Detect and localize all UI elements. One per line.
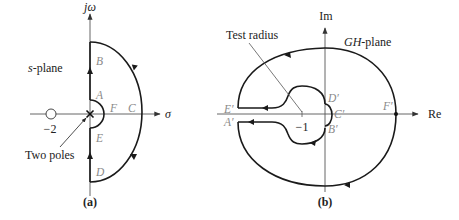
nyquist-inner-upper (238, 86, 325, 108)
point-label-f: F (109, 102, 118, 114)
panel-a-caption: (a) (83, 195, 97, 209)
im-axis-label: Im (319, 9, 333, 23)
point-label-a: A (95, 89, 104, 101)
s-plane-label: s-plane (28, 61, 63, 75)
panel-b-caption: (b) (318, 195, 333, 209)
nyquist-inner-lower (238, 122, 325, 144)
point-label-d: D (95, 166, 105, 178)
direction-arrow-icon (87, 152, 93, 159)
re-axis-label: Re (428, 107, 441, 121)
point-label-c-prime: C′ (334, 108, 345, 120)
nyquist-figure: jω σ −2 s-plane Two poles B A F (0, 0, 459, 220)
point-label-d-prime: D′ (327, 92, 339, 104)
sigma-axis-label: σ (165, 107, 172, 121)
panel-b-gh-plane: Im Re GH-plane −1 Test radius E′ A′ D′ C… (217, 9, 441, 209)
direction-arrow-icon (130, 154, 137, 160)
gh-plane-label: GH-plane (344, 35, 391, 49)
two-poles-pointer (60, 118, 86, 147)
nyquist-outer-lower (238, 114, 396, 186)
panel-a-s-plane: jω σ −2 s-plane Two poles B A F (25, 0, 172, 209)
nyquist-outer-upper (238, 48, 396, 114)
point-label-e-prime: E′ (223, 103, 234, 115)
test-radius-line (249, 43, 302, 112)
direction-arrow-icon (248, 119, 254, 125)
zero-label: −2 (44, 122, 57, 136)
point-label-a-prime: A′ (223, 116, 234, 128)
jw-axis-label: jω (82, 0, 96, 14)
point-label-f-prime: F′ (382, 100, 393, 112)
point-label-c: C (128, 102, 136, 114)
point-label-b-prime: B′ (328, 123, 338, 135)
two-poles-label: Two poles (25, 148, 75, 162)
point-label-e: E (95, 132, 103, 144)
direction-arrow-icon (262, 105, 268, 111)
critical-point-label: −1 (296, 120, 309, 134)
point-label-b: B (96, 55, 103, 67)
direction-arrow-icon (87, 67, 93, 74)
test-radius-label: Test radius (226, 28, 278, 42)
direction-arrow-icon (310, 140, 316, 146)
zero-marker-icon (46, 109, 56, 119)
f-prime-point (394, 112, 398, 116)
